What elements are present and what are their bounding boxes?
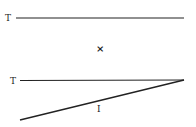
bottom-line-label: T [10,76,16,86]
diagonal-label: I [97,104,101,114]
cross-mark: × [96,43,104,54]
diagram-canvas: T × T I [0,0,196,127]
diagonal-i-line [20,80,184,120]
bottom-t-line [20,80,184,81]
top-line-label: T [5,13,11,23]
